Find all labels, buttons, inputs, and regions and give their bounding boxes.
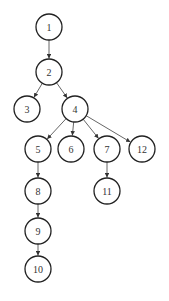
node-label: 8 bbox=[36, 186, 41, 197]
node-label: 12 bbox=[137, 144, 147, 155]
node-label: 4 bbox=[73, 104, 78, 115]
tree-node-5: 5 bbox=[25, 136, 51, 162]
node-label: 3 bbox=[25, 104, 30, 115]
tree-node-11: 11 bbox=[94, 178, 120, 204]
node-label: 5 bbox=[36, 144, 41, 155]
tree-node-4: 4 bbox=[62, 96, 88, 122]
edge-2-3 bbox=[34, 83, 42, 97]
tree-diagram: 123456712811910 bbox=[0, 0, 169, 301]
edge-4-5 bbox=[47, 119, 66, 140]
node-label: 10 bbox=[33, 264, 43, 275]
node-label: 2 bbox=[47, 67, 52, 78]
edge-4-6 bbox=[72, 122, 73, 136]
tree-node-3: 3 bbox=[14, 96, 40, 122]
node-label: 7 bbox=[105, 144, 110, 155]
node-label: 9 bbox=[36, 226, 41, 237]
tree-node-1: 1 bbox=[36, 14, 62, 40]
tree-node-8: 8 bbox=[25, 178, 51, 204]
tree-node-6: 6 bbox=[58, 136, 84, 162]
tree-node-10: 10 bbox=[25, 256, 51, 282]
edge-2-4 bbox=[56, 83, 67, 98]
node-label: 6 bbox=[69, 144, 74, 155]
node-label: 11 bbox=[102, 186, 112, 197]
tree-node-2: 2 bbox=[36, 59, 62, 85]
tree-node-12: 12 bbox=[129, 136, 155, 162]
tree-node-9: 9 bbox=[25, 218, 51, 244]
nodes-layer: 123456712811910 bbox=[14, 14, 155, 282]
node-label: 1 bbox=[47, 22, 52, 33]
tree-node-7: 7 bbox=[94, 136, 120, 162]
